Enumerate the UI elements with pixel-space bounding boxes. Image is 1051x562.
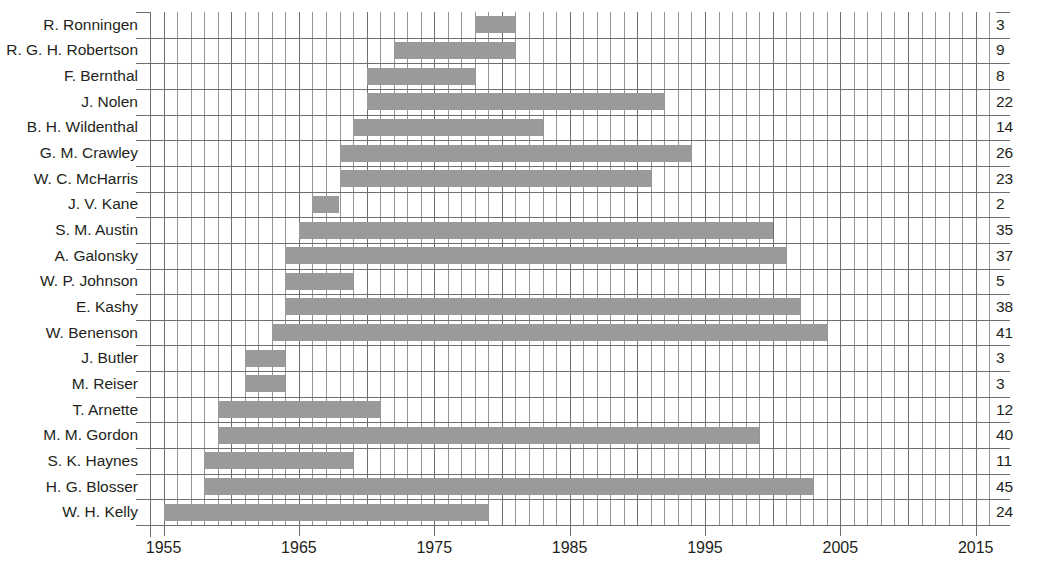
- faculty-timeline-chart: R. RonningenR. G. H. RobertsonF. Berntha…: [0, 0, 1051, 562]
- gridline-horizontal: [150, 192, 996, 193]
- year-count-label: 12: [996, 402, 1013, 418]
- name-axis-tick: [136, 38, 150, 39]
- category-label: J. V. Kane: [68, 196, 138, 212]
- x-axis-tick: [976, 525, 977, 536]
- category-label: M. M. Gordon: [43, 427, 138, 443]
- gridline-horizontal: [150, 448, 996, 449]
- name-axis-tick: [136, 89, 150, 90]
- name-axis-tick: [136, 474, 150, 475]
- timeline-bar: [353, 119, 543, 136]
- category-label: W. H. Kelly: [62, 504, 138, 520]
- timeline-bar: [340, 145, 692, 162]
- timeline-bar: [272, 324, 827, 341]
- name-axis-tick: [136, 243, 150, 244]
- count-axis-tick: [996, 192, 1010, 193]
- year-count-label: 26: [996, 145, 1013, 161]
- timeline-bar: [367, 93, 665, 110]
- timeline-bar: [218, 427, 759, 444]
- gridline-horizontal: [150, 243, 996, 244]
- category-label: H. G. Blosser: [46, 479, 138, 495]
- category-label: T. Arnette: [73, 402, 138, 418]
- count-axis-tick: [996, 371, 1010, 372]
- plot-area: [150, 12, 996, 525]
- count-axis-tick: [996, 38, 1010, 39]
- count-axis-tick: [996, 166, 1010, 167]
- count-axis-tick: [996, 243, 1010, 244]
- category-label: F. Bernthal: [64, 68, 138, 84]
- x-axis-tick-label: 2005: [823, 540, 859, 556]
- year-count-label: 8: [996, 68, 1005, 84]
- category-label: R. Ronningen: [43, 17, 138, 33]
- count-axis-tick: [996, 499, 1010, 500]
- x-axis-line: [150, 525, 996, 526]
- gridline-horizontal: [150, 499, 996, 500]
- category-label: J. Butler: [81, 350, 138, 366]
- category-label: W. Benenson: [46, 325, 138, 341]
- y-axis-spine: [150, 12, 151, 537]
- year-count-label: 3: [996, 350, 1005, 366]
- year-count-label: 11: [996, 453, 1012, 469]
- count-axis-tick: [996, 115, 1010, 116]
- count-axis-tick: [996, 345, 1010, 346]
- x-axis-tick-label: 1995: [687, 540, 723, 556]
- count-axis-tick: [996, 422, 1010, 423]
- gridline-horizontal: [150, 371, 996, 372]
- category-label: J. Nolen: [81, 94, 138, 110]
- name-axis-tick: [136, 320, 150, 321]
- year-count-label: 38: [996, 299, 1013, 315]
- x-axis-tick-label: 2015: [958, 540, 994, 556]
- x-axis-tick-label: 1975: [416, 540, 452, 556]
- name-axis-tick: [136, 12, 150, 13]
- x-axis-tick: [164, 525, 165, 536]
- category-label: W. P. Johnson: [40, 273, 138, 289]
- x-axis-tick: [840, 525, 841, 536]
- category-label: B. H. Wildenthal: [27, 119, 138, 135]
- year-count-label: 22: [996, 94, 1013, 110]
- timeline-bar: [285, 298, 799, 315]
- name-axis-tick: [136, 115, 150, 116]
- category-label: S. K. Haynes: [48, 453, 138, 469]
- count-axis-tick: [996, 140, 1010, 141]
- category-label: G. M. Crawley: [40, 145, 138, 161]
- category-label: R. G. H. Robertson: [6, 42, 138, 58]
- gridline-horizontal: [150, 166, 996, 167]
- timeline-bar: [245, 375, 286, 392]
- year-count-label: 14: [996, 119, 1013, 135]
- name-axis-tick: [136, 294, 150, 295]
- year-count-label: 2: [996, 196, 1005, 212]
- name-axis: R. RonningenR. G. H. RobertsonF. Berntha…: [0, 12, 144, 525]
- name-axis-tick: [136, 140, 150, 141]
- timeline-bar: [312, 196, 339, 213]
- timeline-bar: [204, 478, 813, 495]
- x-axis-tick: [299, 525, 300, 536]
- year-count-label: 37: [996, 248, 1013, 264]
- x-axis: 1955196519751985199520052015: [150, 525, 996, 562]
- x-axis-tick-label: 1965: [281, 540, 317, 556]
- count-axis-tick: [996, 320, 1010, 321]
- x-axis-tick-label: 1985: [552, 540, 588, 556]
- gridline-horizontal: [150, 115, 996, 116]
- count-axis-tick: [996, 294, 1010, 295]
- category-label: S. M. Austin: [55, 222, 138, 238]
- year-count-label: 24: [996, 504, 1013, 520]
- x-axis-tick: [570, 525, 571, 536]
- gridline-horizontal: [150, 474, 996, 475]
- name-axis-tick: [136, 63, 150, 64]
- timeline-bar: [218, 401, 380, 418]
- gridline-horizontal: [150, 63, 996, 64]
- gridline-horizontal: [150, 397, 996, 398]
- name-axis-tick: [136, 192, 150, 193]
- count-axis-tick: [996, 448, 1010, 449]
- name-axis-tick: [136, 371, 150, 372]
- timeline-bar: [204, 452, 353, 469]
- name-axis-tick: [136, 217, 150, 218]
- x-axis-tick: [434, 525, 435, 536]
- plot-gridlines: [150, 12, 996, 525]
- year-count-label: 9: [996, 42, 1005, 58]
- year-count-label: 3: [996, 376, 1005, 392]
- category-label: W. C. McHarris: [34, 171, 138, 187]
- gridline-horizontal: [150, 345, 996, 346]
- gridline-horizontal: [150, 422, 996, 423]
- timeline-bar: [164, 504, 489, 521]
- gridline-horizontal: [150, 140, 996, 141]
